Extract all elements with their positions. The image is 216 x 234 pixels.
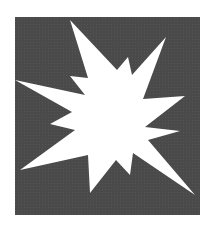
starburst-explosion-icon [0,0,216,234]
explosion-graphic [0,0,216,234]
